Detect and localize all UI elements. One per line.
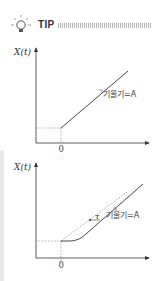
tip-diagram: X(t) 0 기울기=A τ 기울기=A X(t) 0 xyxy=(0,0,161,281)
origin-label: 0 xyxy=(59,260,64,270)
slope-label: 기울기=A xyxy=(103,90,137,99)
lightbulb-icon xyxy=(11,15,31,32)
delay-label: τ xyxy=(95,212,100,221)
slope-label: 기울기=A xyxy=(106,211,140,220)
title-rule xyxy=(58,23,152,28)
y-axis-label: X(t) xyxy=(13,162,32,172)
tip-title: TIP xyxy=(38,19,54,30)
graph-delayed: τ 기울기=A X(t) 0 xyxy=(13,162,149,270)
ramp-line xyxy=(61,71,128,128)
origin-label: 0 xyxy=(59,144,64,154)
y-axis-label: X(t) xyxy=(13,47,32,57)
graph-linear: X(t) 0 기울기=A xyxy=(13,47,149,154)
